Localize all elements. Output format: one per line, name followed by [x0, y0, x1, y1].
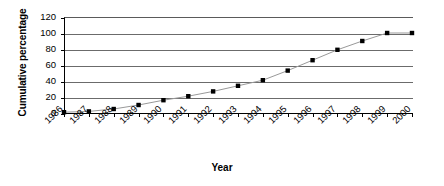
x-axis-tickmark [188, 113, 189, 117]
y-axis-tick-label: 20 [45, 92, 56, 102]
data-point-marker [236, 84, 240, 88]
x-axis-tickmark [163, 113, 164, 117]
y-axis-title: Cumulative percentage [17, 0, 28, 129]
x-axis-tickmark [387, 113, 388, 117]
x-axis-tickmark [337, 113, 338, 117]
y-axis-tick-label: 80 [45, 44, 56, 54]
x-axis-tickmark [362, 113, 363, 117]
y-axis-tick-label: 120 [40, 12, 56, 22]
x-axis-title: Year [0, 162, 444, 173]
x-axis-tickmark [263, 113, 264, 117]
x-axis-tickmark [412, 113, 413, 117]
data-point-marker [410, 31, 414, 35]
cumulative-percentage-line-chart: Cumulative percentage 020406080100120 19… [0, 0, 444, 186]
x-axis-tickmark [288, 113, 289, 117]
x-axis-tickmark [139, 113, 140, 117]
data-point-marker [186, 94, 190, 98]
x-axis-tickmark [313, 113, 314, 117]
x-axis-tick-labels: 1986198719881989199019911992199319941995… [64, 118, 413, 158]
data-point-marker [310, 58, 314, 62]
data-point-marker [136, 103, 140, 107]
series-line [64, 33, 412, 112]
x-axis-tickmark [114, 113, 115, 117]
y-axis-tick-label: 60 [45, 60, 56, 70]
y-axis-tick-label: 40 [45, 76, 56, 86]
y-axis-tick-labels: 020406080100120 [30, 11, 58, 115]
data-point-marker [335, 48, 339, 52]
data-series-cumulative-percentage [64, 17, 412, 113]
data-point-marker [211, 89, 215, 93]
data-point-marker [286, 68, 290, 72]
x-axis-tickmark [213, 113, 214, 117]
data-point-marker [161, 98, 165, 102]
data-point-marker [261, 78, 265, 82]
x-axis-tickmark [238, 113, 239, 117]
y-axis-tick-label: 100 [40, 28, 56, 38]
data-point-marker [385, 31, 389, 35]
data-point-marker [360, 39, 364, 43]
